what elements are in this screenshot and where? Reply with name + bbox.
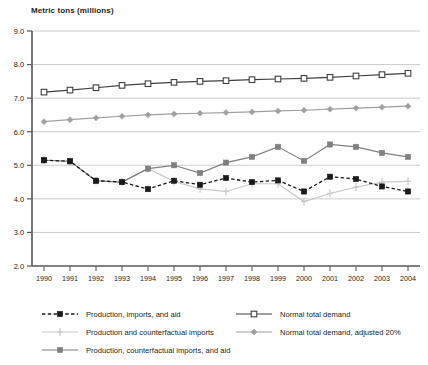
svg-text:4.0: 4.0	[14, 195, 24, 204]
svg-text:8.0: 8.0	[14, 60, 24, 69]
svg-text:1991: 1991	[62, 274, 78, 283]
svg-text:1997: 1997	[218, 274, 234, 283]
legend-marker-1	[40, 326, 80, 338]
legend-label-3: Normal total demand	[280, 310, 351, 319]
svg-text:1992: 1992	[88, 274, 104, 283]
svg-text:1996: 1996	[192, 274, 208, 283]
svg-text:1994: 1994	[140, 274, 156, 283]
svg-text:1999: 1999	[270, 274, 286, 283]
plot-area: 2.03.04.05.06.07.08.09.0 199019911992199…	[0, 0, 428, 300]
series-4	[41, 103, 411, 124]
svg-text:5.0: 5.0	[14, 161, 24, 170]
svg-text:2000: 2000	[296, 274, 312, 283]
x-tick-labels: 1990199119921993199419951996199719981999…	[36, 274, 416, 283]
legend-item-production-counterfactual-imports-and-aid[interactable]: Production, counterfactual imports, and …	[40, 344, 230, 356]
legend-label-0: Production, imports, and aid	[86, 310, 181, 319]
legend-item-normal-total-demand[interactable]: Normal total demand	[234, 308, 351, 320]
legend-marker-0	[40, 308, 80, 320]
svg-text:2003: 2003	[374, 274, 390, 283]
series-layer	[41, 71, 411, 206]
y-tick-labels: 2.03.04.05.06.07.08.09.0	[14, 27, 32, 271]
chart-root: Metric tons (millions) 2.03.04.05.06.07.…	[0, 0, 428, 365]
legend-label-1: Production and counterfactual imports	[86, 328, 214, 337]
legend-item-production-imports-and-aid[interactable]: Production, imports, and aid	[40, 308, 181, 320]
legend-item-normal-total-demand-adjusted[interactable]: Normal total demand, adjusted 20%	[234, 326, 401, 338]
legend-marker-3	[234, 308, 274, 320]
legend-marker-4	[234, 326, 274, 338]
series-3	[41, 71, 411, 95]
legend-marker-2	[40, 344, 80, 356]
svg-text:6.0: 6.0	[14, 128, 24, 137]
line-chart-svg: 2.03.04.05.06.07.08.09.0 199019911992199…	[0, 0, 428, 300]
legend-label-4: Normal total demand, adjusted 20%	[280, 328, 401, 337]
svg-text:1995: 1995	[166, 274, 182, 283]
svg-text:2002: 2002	[348, 274, 364, 283]
svg-text:1998: 1998	[244, 274, 260, 283]
svg-text:1990: 1990	[36, 274, 52, 283]
svg-text:3.0: 3.0	[14, 228, 24, 237]
svg-text:7.0: 7.0	[14, 94, 24, 103]
legend-label-2: Production, counterfactual imports, and …	[86, 346, 230, 355]
svg-text:1993: 1993	[114, 274, 130, 283]
legend-item-production-and-counterfactual-imports[interactable]: Production and counterfactual imports	[40, 326, 214, 338]
chart-legend: Production, imports, and aid Production …	[22, 305, 422, 361]
svg-text:2004: 2004	[400, 274, 416, 283]
gridlines	[32, 31, 420, 232]
svg-text:2001: 2001	[322, 274, 338, 283]
svg-text:2.0: 2.0	[14, 262, 24, 271]
svg-text:9.0: 9.0	[14, 27, 24, 36]
